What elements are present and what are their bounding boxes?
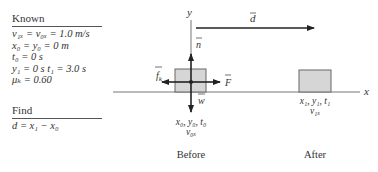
block-after: [299, 70, 331, 92]
y-axis-label: y: [186, 6, 192, 18]
particle-center-dot: [189, 80, 193, 84]
weight-label: w: [198, 95, 205, 106]
displacement-label: d: [250, 12, 256, 24]
before-state-position: x₀, y₀, t₀: [175, 117, 206, 127]
normal-force-label: n: [196, 39, 201, 50]
applied-force-label: F: [224, 77, 232, 88]
after-state-position: x₁, y₁, t₁: [299, 96, 330, 106]
before-state-velocity: v₀ₓ: [186, 127, 197, 137]
after-label: After: [304, 149, 327, 160]
motion-diagram: x y d n w F fk x₀, y₀, t₀ v₀ₓ Before x₁,…: [0, 0, 378, 172]
after-state-velocity: v₁ₓ: [310, 106, 321, 116]
before-label: Before: [177, 149, 206, 160]
friction-force-label: fk: [156, 70, 163, 83]
x-axis-label: x: [363, 85, 369, 97]
